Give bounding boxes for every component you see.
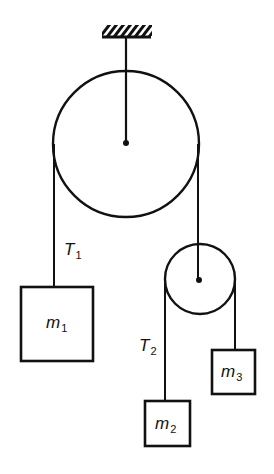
label-t1-main: T <box>64 240 74 259</box>
label-m1: m1 <box>46 314 67 334</box>
label-m2: m2 <box>155 415 176 435</box>
pulley-diagram <box>0 0 274 474</box>
label-m2-main: m <box>155 414 169 433</box>
label-t2: T2 <box>139 337 157 357</box>
label-m3-sub: 3 <box>236 371 242 383</box>
small-pulley-axle <box>196 277 202 283</box>
label-m3-main: m <box>221 362 235 381</box>
label-t1-sub: 1 <box>75 249 81 261</box>
label-t1: T1 <box>64 241 82 261</box>
label-m1-main: m <box>46 313 60 332</box>
ceiling-support <box>100 24 159 37</box>
label-t2-main: T <box>139 336 149 355</box>
label-m1-sub: 1 <box>61 322 67 334</box>
label-m2-sub: 2 <box>170 423 176 435</box>
large-pulley-axle <box>123 140 129 146</box>
label-t2-sub: 2 <box>150 345 156 357</box>
label-m3: m3 <box>221 363 242 383</box>
